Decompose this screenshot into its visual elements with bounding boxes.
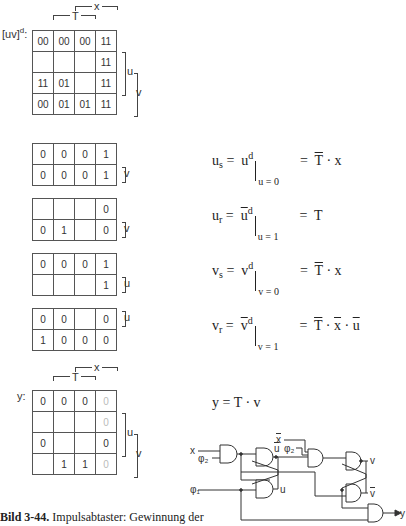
kmap-cell [54,275,75,296]
kmap-cell [54,412,75,433]
kmap-row: 1000 [33,330,117,351]
kmap-cell [33,275,54,296]
kmap-cell: 1 [54,454,75,475]
eq-lhs-sub: r [219,324,222,335]
y-kmap: 0000000110 [32,390,117,475]
kmap-cell: 01 [54,73,75,94]
kmap-cell: 0 [75,330,96,351]
x-bracket-end [117,6,118,10]
main-map-label: [uv]d: [2,26,27,40]
kmap-cell: 0 [54,165,75,186]
y-x-label: x [92,361,102,373]
output-v-label: v [370,455,375,466]
eq-lhs: u [212,153,219,168]
kmap-cell: 00 [33,94,54,115]
v-label: v [136,86,142,98]
kmap-cell: 0 [33,391,54,412]
kmap-cell: 0 [75,391,96,412]
y-equation: y = T · v [212,395,261,411]
kmap-cell [75,220,96,241]
kmap-row: 110 [33,454,117,475]
kmap-cell: 0 [75,254,96,275]
kmap-cell [75,433,96,454]
input-x-label: x [190,445,195,456]
output-vbar-label: v [370,488,375,499]
y-t-bracket-end [95,376,96,380]
side-label: v [124,167,130,179]
eq-rhs-part: T [314,208,323,223]
kmap-row: 0001 [33,254,117,275]
eq-mid-sup: d [248,260,253,271]
kmap-cell [75,412,96,433]
kmap-cell: 01 [54,94,75,115]
equation: us = udu = 0 = T · x [212,150,342,181]
kmap-row: 00010111 [33,94,117,115]
kmap-cell: 0 [96,309,117,330]
equation: vr = vdv = 1 = T · x · u [212,315,360,346]
side-label: u [124,277,130,289]
eq-rhs-part: · [341,318,353,333]
kmap-row: 0001 [33,165,117,186]
u-bracket [122,52,126,96]
kmap-cell: 0 [96,199,117,220]
kmap-cell [33,52,54,73]
kmap-cell [75,73,96,94]
kmap-row: 010 [33,220,117,241]
kmap-cell: 00 [75,31,96,52]
kmap-cell: 1 [96,144,117,165]
output-y-label: y [400,508,405,519]
kmap-cell: 0 [54,144,75,165]
y-t-label: T [70,371,81,383]
input-phi1-label: φ₁ [190,484,200,495]
eq-eval-bar: u = 0 [255,161,279,181]
eq-rhs-part: · [322,318,334,333]
eq-rhs-part: x [334,318,341,333]
kmap-cell [33,454,54,475]
eq-mid-sup: d [248,150,253,161]
kmap-cell: 0 [54,309,75,330]
kmap-cell: 0 [54,391,75,412]
u-label: u [127,65,133,77]
kmap-cell: 11 [96,73,117,94]
kmap-cell: 1 [54,220,75,241]
eq-lhs: u [212,208,219,223]
kmap-row: 000 [33,309,117,330]
equation: ur = udu = 1 = T [212,205,323,236]
kmap-cell [33,412,54,433]
kmap-cell [33,199,54,220]
eq-mid: v [241,318,248,333]
y-map-label: y: [17,390,26,402]
ur-map: 0010 [32,198,117,241]
eq-rhs-part: T [315,153,323,168]
kmap-cell: 0 [96,330,117,351]
kmap-cell [75,275,96,296]
side-label: v [124,222,130,234]
vs-map: 00011 [32,253,117,296]
eq-lhs: v [212,318,219,333]
figure-caption: Bild 3-44. Impulsabtaster: Gewinnung der [0,510,204,525]
kmap-cell: 0 [33,144,54,165]
eq-eval-bar: v = 0 [255,271,279,291]
kmap-cell: 1 [75,454,96,475]
eq-mid-sup: d [248,315,253,326]
kmap-cell: 0 [54,330,75,351]
kmap-cell: 1 [96,254,117,275]
y-u-bracket [122,413,126,457]
kmap-cell: 0 [96,412,117,433]
eq-cond: u = 1 [258,231,279,242]
kmap-row: 1 [33,275,117,296]
t-label: T [70,10,81,22]
kmap-cell: 11 [96,31,117,52]
eq-rhs-part: · [323,263,335,278]
kmap-cell: 0 [96,454,117,475]
eq-rhs-part: u [353,318,360,333]
kmap-cell: 1 [33,330,54,351]
kmap-cell: 0 [33,254,54,275]
eq-mid-sup: d [248,205,253,216]
kmap-row: 11 [33,52,117,73]
kmap-row: 0 [33,199,117,220]
eq-cond: u = 0 [258,176,279,187]
kmap-cell: 0 [96,391,117,412]
eq-lhs-sub: s [219,269,223,280]
eq-cond: v = 0 [258,286,279,297]
